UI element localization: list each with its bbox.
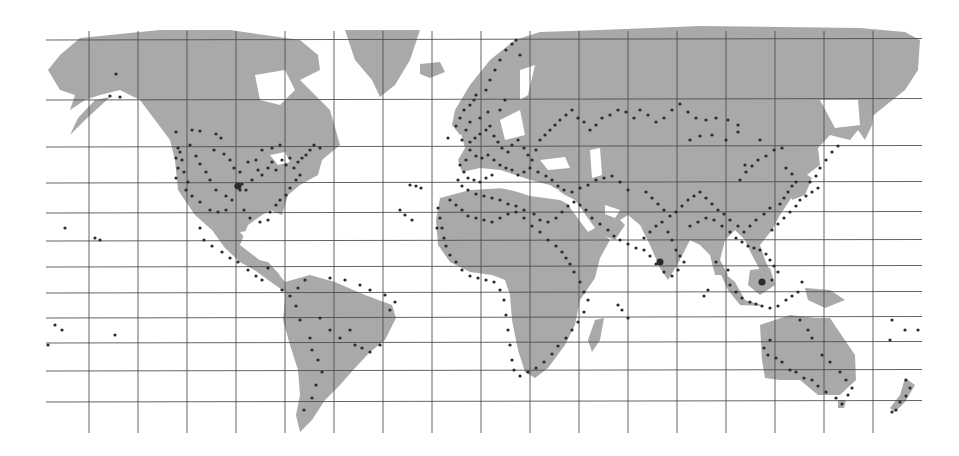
location-marker: [642, 236, 645, 239]
location-marker: [768, 306, 771, 309]
location-marker: [472, 98, 475, 101]
location-marker: [656, 202, 659, 205]
location-marker: [224, 208, 227, 211]
location-marker: [558, 118, 561, 121]
location-marker: [610, 174, 613, 177]
location-marker: [904, 378, 907, 381]
location-marker: [816, 384, 819, 387]
location-marker-large: [657, 259, 664, 266]
location-marker: [320, 370, 323, 373]
location-marker: [686, 110, 689, 113]
location-marker: [174, 176, 177, 179]
location-marker: [60, 328, 63, 331]
location-marker: [462, 170, 465, 173]
location-marker: [738, 178, 741, 181]
location-marker: [584, 208, 587, 211]
location-marker: [903, 328, 906, 331]
location-marker: [266, 266, 269, 269]
location-marker: [582, 310, 585, 313]
location-marker: [498, 108, 501, 111]
location-marker: [242, 208, 245, 211]
location-marker: [806, 328, 809, 331]
location-marker: [678, 254, 681, 257]
location-marker: [762, 212, 765, 215]
location-marker: [98, 238, 101, 241]
location-marker: [828, 360, 831, 363]
world-map-canvas: [0, 0, 959, 456]
location-marker: [288, 294, 291, 297]
location-marker: [314, 383, 317, 386]
location-marker: [180, 158, 183, 161]
location-marker: [488, 78, 491, 81]
location-marker: [836, 144, 839, 147]
location-marker: [436, 206, 439, 209]
location-marker: [796, 290, 799, 293]
location-marker: [650, 196, 653, 199]
location-marker: [506, 212, 509, 215]
location-marker: [270, 160, 273, 163]
location-marker: [500, 146, 503, 149]
location-marker: [676, 268, 679, 271]
location-marker: [578, 186, 581, 189]
location-marker: [734, 290, 737, 293]
location-marker: [692, 194, 695, 197]
location-marker: [850, 386, 853, 389]
location-marker: [464, 158, 467, 161]
location-marker: [468, 120, 471, 123]
location-marker: [560, 250, 563, 253]
grid-parallel-7: [46, 292, 922, 294]
location-marker: [766, 353, 769, 356]
location-marker: [174, 130, 177, 133]
location-marker: [778, 202, 781, 205]
location-marker: [626, 316, 629, 319]
location-marker: [358, 283, 361, 286]
location-marker: [526, 153, 529, 156]
location-marker: [522, 170, 525, 173]
location-marker: [256, 168, 259, 171]
location-marker: [212, 148, 215, 151]
location-marker: [804, 194, 807, 197]
location-marker: [174, 156, 177, 159]
location-marker: [474, 93, 477, 96]
location-marker: [353, 343, 356, 346]
location-marker: [762, 346, 765, 349]
location-marker: [484, 176, 487, 179]
location-marker: [114, 72, 117, 75]
location-marker: [752, 246, 755, 249]
location-marker: [696, 220, 699, 223]
location-marker: [704, 118, 707, 121]
location-marker: [388, 308, 391, 311]
landmass-madagascar: [588, 318, 604, 352]
location-marker: [274, 168, 277, 171]
location-marker: [393, 300, 396, 303]
location-marker: [250, 178, 253, 181]
location-marker: [624, 110, 627, 113]
location-marker: [343, 278, 346, 281]
location-marker: [46, 343, 49, 346]
location-marker: [280, 158, 283, 161]
location-marker: [654, 120, 657, 123]
location-marker: [638, 108, 641, 111]
location-marker: [698, 190, 701, 193]
location-marker: [682, 260, 685, 263]
location-marker: [814, 174, 817, 177]
location-marker: [728, 230, 731, 233]
location-marker: [514, 38, 517, 41]
location-marker: [220, 250, 223, 253]
location-marker: [740, 240, 743, 243]
location-marker: [466, 214, 469, 217]
location-marker: [788, 210, 791, 213]
location-marker: [504, 313, 507, 316]
location-marker: [444, 244, 447, 247]
location-marker: [586, 183, 589, 186]
location-marker: [534, 148, 537, 151]
location-marker: [608, 113, 611, 116]
location-marker: [318, 316, 321, 319]
location-marker: [488, 124, 491, 127]
location-marker: [898, 400, 901, 403]
location-marker: [704, 216, 707, 219]
location-marker: [522, 208, 525, 211]
location-marker: [516, 138, 519, 141]
location-marker: [118, 95, 121, 98]
location-marker: [378, 343, 381, 346]
